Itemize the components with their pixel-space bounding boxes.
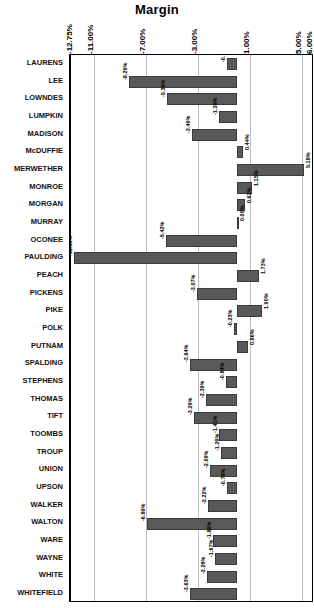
category-label: MADISON [0, 130, 63, 138]
bar-value-label: -2.22% [201, 486, 207, 503]
bar-row: -5.42% [71, 232, 312, 250]
bar-value-label: 0.62% [246, 188, 252, 204]
bar-value-label: -2.09% [203, 451, 209, 468]
bar-value-label: -3.63% [183, 575, 189, 592]
bar-value-label: 1.73% [260, 258, 266, 274]
bar [167, 93, 237, 105]
category-label: TIFT [0, 412, 63, 420]
category-label: THOMAS [0, 395, 63, 403]
bar-row: -2.22% [71, 497, 312, 515]
bar-value-label: -1.67% [208, 539, 214, 556]
bar [147, 518, 237, 530]
category-label: WHITEFIELD [0, 589, 63, 597]
category-label: WALKER [0, 501, 63, 509]
bar-value-label: -1.80% [206, 522, 212, 539]
bar-value-label: -1.38% [212, 97, 218, 114]
bar [221, 447, 237, 459]
bar-row: -3.29% [71, 409, 312, 427]
x-axis-tick-labels: -12.75%-11.00%-7.00%-3.00%1.00%5.00%6.00… [0, 16, 314, 54]
bar [227, 58, 236, 70]
x-tick-label: -7.00% [139, 29, 147, 54]
category-label: PUTNAM [0, 342, 63, 350]
bar [219, 429, 237, 441]
category-label: POLK [0, 324, 63, 332]
category-label: TOOMBS [0, 430, 63, 438]
bar-value-label: 0.86% [249, 329, 255, 345]
category-label: OCONEE [0, 236, 63, 244]
bar-row: -1.80% [71, 532, 312, 550]
category-label: LAURENS [0, 59, 63, 67]
bar [166, 235, 237, 247]
bar-row: -12.50% [71, 249, 312, 267]
bar-value-label: 5.18% [305, 152, 311, 168]
category-label: WARE [0, 536, 63, 544]
bar-row: 0.09% [71, 214, 312, 232]
category-label: LOWNDES [0, 94, 63, 102]
bar [237, 270, 260, 282]
bar [129, 76, 237, 88]
bar-row: 1.90% [71, 302, 312, 320]
bar-value-label: -3.07% [190, 274, 196, 291]
bar [197, 288, 237, 300]
bar-value-label: -2.28% [200, 557, 206, 574]
bar-value-label: -12.50% [69, 236, 73, 257]
category-label: MERWETHER [0, 165, 63, 173]
bar-value-label: -6.89% [140, 504, 146, 521]
category-axis-labels: LAURENSLEELOWNDESLUMPKINMADISONMcDUFFIEM… [0, 54, 66, 602]
bar-row: -1.38% [71, 108, 312, 126]
category-label: MONROE [0, 183, 63, 191]
category-label: STEPHENS [0, 377, 63, 385]
category-label: McDUFFIE [0, 147, 63, 155]
category-label: PEACH [0, 271, 63, 279]
bar-value-label: 0.09% [239, 205, 245, 221]
bar [213, 535, 236, 547]
bar-row: 0.44% [71, 143, 312, 161]
bar-value-label: -0.23% [227, 310, 233, 327]
bar [237, 341, 248, 353]
bar [207, 571, 237, 583]
bar-row: -2.28% [71, 568, 312, 586]
category-label: UNION [0, 465, 63, 473]
bar-value-label: -0.84% [219, 363, 225, 380]
category-label: LUMPKIN [0, 112, 63, 120]
bar [226, 376, 237, 388]
bar-value-label: -0.73% [220, 54, 226, 62]
x-tick-label: 1.00% [243, 31, 251, 54]
bar-value-label: -5.38% [160, 80, 166, 97]
x-tick-label: 6.00% [306, 31, 314, 54]
category-label: LEE [0, 77, 63, 85]
bar-value-label: -3.29% [187, 398, 193, 415]
bar-row: -3.63% [71, 585, 312, 602]
bar-row: -3.07% [71, 285, 312, 303]
bar-value-label: 0.44% [244, 135, 250, 151]
bar [234, 323, 237, 335]
bar [219, 111, 237, 123]
bar-row: -6.89% [71, 515, 312, 533]
category-label: WAYNE [0, 554, 63, 562]
margin-bar-chart: Margin -12.75%-11.00%-7.00%-3.00%1.00%5.… [0, 0, 314, 608]
bar [237, 146, 243, 158]
bar-row: -3.49% [71, 126, 312, 144]
bar-value-label: -0.78% [220, 469, 226, 486]
bar-value-label: -3.64% [183, 345, 189, 362]
bar-value-label: 1.90% [263, 294, 269, 310]
bar-row: -2.09% [71, 462, 312, 480]
bar-row: -1.67% [71, 550, 312, 568]
bar-row: 5.18% [71, 161, 312, 179]
category-label: PIKE [0, 306, 63, 314]
bar [190, 588, 237, 600]
bar [190, 359, 237, 371]
category-label: MORGAN [0, 200, 63, 208]
bar [237, 164, 304, 176]
bar-row: -1.41% [71, 426, 312, 444]
bar-row: -5.38% [71, 90, 312, 108]
category-label: WHITE [0, 571, 63, 579]
category-label: PICKENS [0, 289, 63, 297]
bar [208, 500, 237, 512]
bar-value-label: -3.49% [185, 115, 191, 132]
plot-area: -0.73%-8.29%-5.38%-1.38%-3.49%0.44%5.18%… [69, 54, 313, 602]
bar-row: -0.84% [71, 373, 312, 391]
bar-row: -0.23% [71, 320, 312, 338]
category-label: TROUP [0, 448, 63, 456]
bar-row: 0.62% [71, 196, 312, 214]
